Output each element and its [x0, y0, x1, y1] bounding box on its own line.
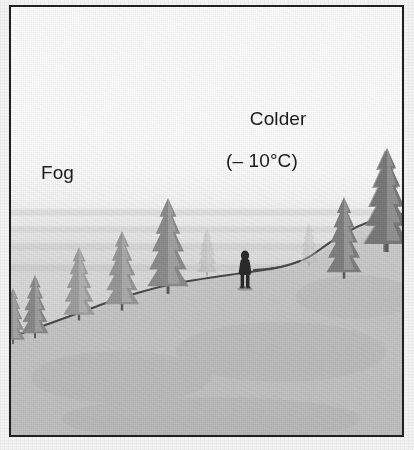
label-fog: Fog [41, 162, 74, 183]
person-ground-shadow [237, 287, 253, 290]
illustration-frame: Colder (– 10°C) Fog [9, 5, 404, 437]
label-colder-group: Colder (– 10°C) [202, 87, 322, 213]
label-colder-temperature: (– 10°C) [202, 150, 322, 171]
label-colder-text: Colder [250, 108, 307, 129]
person-silhouette [239, 251, 252, 289]
figure-root: Colder (– 10°C) Fog [0, 0, 414, 450]
person-figure [11, 7, 402, 435]
